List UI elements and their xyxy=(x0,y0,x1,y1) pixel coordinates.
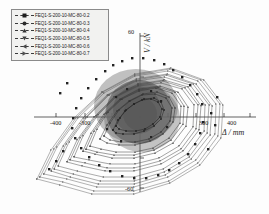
legend-marker-triangle-left xyxy=(15,43,34,50)
legend-item-1[interactable]: FEQ1-S-200-10-MC-80-0.3 xyxy=(15,20,106,28)
x-axis-title: Δ / mm xyxy=(222,128,244,137)
legend-label-4: FEQ1-S-200-10-MC-80-0.6 xyxy=(34,43,90,50)
legend-label-0: FEQ1-S-200-10-MC-80-0.2 xyxy=(34,12,90,19)
y-tick-label-minus-60: -60 xyxy=(125,185,133,192)
y-tick-label-60: 60 xyxy=(128,28,134,35)
legend-item-4[interactable]: FEQ1-S-200-10-MC-80-0.6 xyxy=(15,42,106,50)
hysteresis-chart-figure: FEQ1-S-200-10-MC-80-0.2 FEQ1-S-200-10-MC… xyxy=(0,0,269,214)
legend-label-2: FEQ1-S-200-10-MC-80-0.4 xyxy=(34,27,90,34)
x-tick-label-minus-400: -400 xyxy=(50,119,61,126)
y-axis-title: V / kN xyxy=(144,0,153,15)
legend-item-0[interactable]: FEQ1-S-200-10-MC-80-0.2 xyxy=(15,12,106,20)
legend-label-3: FEQ1-S-200-10-MC-80-0.5 xyxy=(34,35,90,42)
x-tick-label-plus-400: 400 xyxy=(227,119,236,126)
chart-legend[interactable]: FEQ1-S-200-10-MC-80-0.2 FEQ1-S-200-10-MC… xyxy=(11,9,109,61)
x-tick-label-minus-300: -300 xyxy=(79,119,90,126)
legend-marker-circle xyxy=(15,20,34,27)
legend-item-3[interactable]: FEQ1-S-200-10-MC-80-0.5 xyxy=(15,35,106,43)
legend-marker-triangle-down xyxy=(15,35,34,42)
x-tick-label-plus-300: 300 xyxy=(199,119,208,126)
legend-item-5[interactable]: FEQ1-S-200-10-MC-80-0.7 xyxy=(15,50,106,58)
loop-core-fill xyxy=(94,69,180,152)
legend-label-5: FEQ1-S-200-10-MC-80-0.7 xyxy=(34,50,90,57)
legend-marker-triangle-right xyxy=(15,50,34,57)
legend-marker-square xyxy=(15,12,34,19)
legend-marker-triangle-up xyxy=(15,27,34,34)
legend-label-1: FEQ1-S-200-10-MC-80-0.3 xyxy=(34,20,90,27)
legend-item-2[interactable]: FEQ1-S-200-10-MC-80-0.4 xyxy=(15,27,106,35)
